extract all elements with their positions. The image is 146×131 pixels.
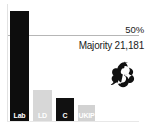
bar-label-ld: LD xyxy=(33,112,52,120)
bar-label-lab: Lab xyxy=(10,112,29,120)
x-axis-line xyxy=(7,121,139,122)
election-bar-chart: 50% Majority 21,181 Lab LD C UKIP xyxy=(0,0,146,131)
bar-label-c: C xyxy=(56,112,74,120)
labour-rose-icon xyxy=(108,60,139,90)
bar-label-ukip: UKIP xyxy=(78,112,95,120)
bar-ukip: UKIP xyxy=(78,105,95,121)
y-axis-line xyxy=(7,4,8,121)
bar-c: C xyxy=(56,98,74,121)
bar-lab: Lab xyxy=(10,11,29,121)
bar-ld: LD xyxy=(33,90,52,121)
majority-label: Majority 21,181 xyxy=(79,40,144,51)
threshold-label: 50% xyxy=(125,25,144,35)
